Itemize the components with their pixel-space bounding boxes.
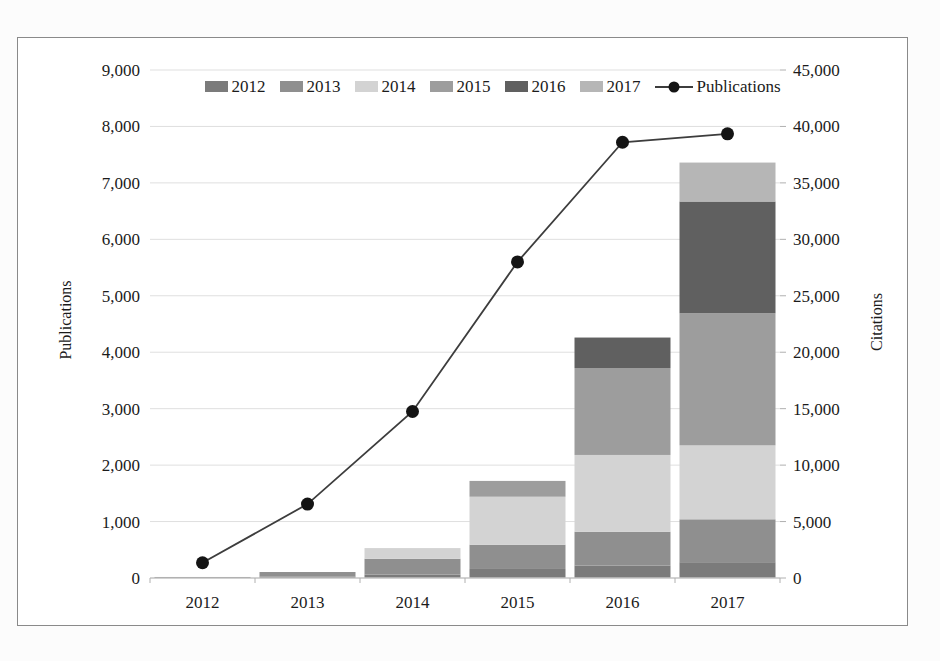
left-axis-tick-label: 9,000 bbox=[102, 61, 140, 80]
publications-marker-2016 bbox=[616, 136, 629, 149]
left-axis-tick-label: 0 bbox=[132, 569, 141, 588]
bar-segment-2017-2013 bbox=[680, 519, 776, 562]
left-axis-tick-label: 3,000 bbox=[102, 400, 140, 419]
right-axis-tick-label: 35,000 bbox=[793, 174, 840, 193]
bar-segment-2015-2013 bbox=[470, 545, 566, 569]
bar-segment-2017-2016 bbox=[680, 202, 776, 314]
bar-segment-2013-2013 bbox=[260, 572, 356, 577]
publications-marker-2015 bbox=[511, 255, 524, 268]
bar-segment-2016-2013 bbox=[575, 532, 671, 566]
right-axis-tick-label: 25,000 bbox=[793, 287, 840, 306]
publications-marker-2017 bbox=[721, 127, 734, 140]
x-axis-tick-label: 2017 bbox=[711, 593, 746, 612]
left-axis-tick-label: 1,000 bbox=[102, 513, 140, 532]
bar-segment-2014-2014 bbox=[365, 548, 461, 559]
right-axis-tick-label: 0 bbox=[793, 569, 802, 588]
right-axis-tick-label: 5,000 bbox=[793, 513, 831, 532]
page: 01,0002,0003,0004,0005,0006,0007,0008,00… bbox=[0, 0, 940, 661]
right-axis-tick-label: 40,000 bbox=[793, 117, 840, 136]
right-axis-tick-label: 30,000 bbox=[793, 230, 840, 249]
bar-segment-2017-2012 bbox=[680, 562, 776, 578]
left-axis-title: Publications bbox=[57, 280, 75, 359]
x-axis-tick-label: 2013 bbox=[291, 593, 325, 612]
bar-segment-2015-2012 bbox=[470, 569, 566, 578]
bar-segment-2014-2013 bbox=[365, 559, 461, 575]
right-axis-tick-label: 45,000 bbox=[793, 61, 840, 80]
bar-segment-2015-2015 bbox=[470, 481, 566, 497]
x-axis-tick-label: 2015 bbox=[501, 593, 535, 612]
bar-segment-2016-2014 bbox=[575, 455, 671, 532]
x-axis-tick-label: 2016 bbox=[606, 593, 640, 612]
publications-marker-2013 bbox=[301, 498, 314, 511]
left-axis-tick-label: 5,000 bbox=[102, 287, 140, 306]
x-axis-tick-label: 2014 bbox=[396, 593, 431, 612]
left-axis-tick-label: 6,000 bbox=[102, 230, 140, 249]
chart-canvas: 01,0002,0003,0004,0005,0006,0007,0008,00… bbox=[0, 0, 940, 661]
right-axis-title: Citations bbox=[868, 293, 886, 351]
publications-marker-2012 bbox=[196, 556, 209, 569]
bar-segment-2016-2015 bbox=[575, 368, 671, 455]
bar-segment-2017-2014 bbox=[680, 445, 776, 519]
right-axis-tick-label: 15,000 bbox=[793, 400, 840, 419]
publications-marker-2014 bbox=[406, 405, 419, 418]
bar-segment-2016-2016 bbox=[575, 338, 671, 368]
bar-segment-2015-2014 bbox=[470, 497, 566, 545]
x-axis-tick-label: 2012 bbox=[186, 593, 220, 612]
left-axis-tick-label: 7,000 bbox=[102, 174, 140, 193]
bar-segment-2016-2012 bbox=[575, 566, 671, 578]
left-axis-tick-label: 2,000 bbox=[102, 456, 140, 475]
bar-segment-2017-2015 bbox=[680, 313, 776, 445]
right-axis-tick-label: 10,000 bbox=[793, 456, 840, 475]
left-axis-tick-label: 4,000 bbox=[102, 343, 140, 362]
left-axis-tick-label: 8,000 bbox=[102, 117, 140, 136]
right-axis-tick-label: 20,000 bbox=[793, 343, 840, 362]
bar-segment-2017-2017 bbox=[680, 163, 776, 202]
